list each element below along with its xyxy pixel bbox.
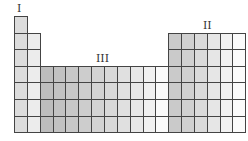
element-cell: [130, 99, 144, 117]
element-cell: [168, 116, 182, 133]
element-cell: [207, 33, 221, 50]
element-cell: [130, 82, 144, 100]
element-cell: [194, 49, 208, 67]
element-cell: [232, 116, 246, 133]
element-cell: [194, 116, 208, 133]
element-cell: [91, 99, 105, 117]
label-block-III: III: [96, 53, 109, 64]
element-cell: [181, 82, 195, 100]
element-cell: [181, 99, 195, 117]
element-cell: [117, 82, 131, 100]
element-cell: [130, 66, 144, 83]
element-cell: [207, 49, 221, 67]
element-cell: [181, 49, 195, 67]
element-cell: [194, 99, 208, 117]
element-cell: [91, 66, 105, 83]
element-cell: [14, 99, 28, 117]
element-cell: [117, 116, 131, 133]
element-cell: [181, 33, 195, 50]
element-cell: [155, 82, 169, 100]
element-cell: [65, 82, 79, 100]
element-cell: [14, 33, 28, 50]
element-cell: [27, 33, 41, 50]
element-cell: [155, 116, 169, 133]
element-cell: [27, 66, 41, 83]
element-cell: [14, 16, 28, 34]
element-cell: [155, 99, 169, 117]
element-cell: [14, 116, 28, 133]
label-block-II: II: [203, 20, 212, 31]
element-cell: [181, 66, 195, 83]
element-cell: [104, 66, 118, 83]
element-cell: [91, 82, 105, 100]
element-cell: [40, 66, 54, 83]
element-cell: [232, 66, 246, 83]
element-cell: [27, 116, 41, 133]
element-cell: [168, 49, 182, 67]
element-cell: [104, 82, 118, 100]
element-cell: [65, 66, 79, 83]
element-cell: [168, 99, 182, 117]
element-cell: [207, 116, 221, 133]
element-cell: [232, 49, 246, 67]
element-cell: [27, 82, 41, 100]
element-cell: [117, 66, 131, 83]
element-cell: [40, 116, 54, 133]
element-cell: [168, 66, 182, 83]
element-cell: [232, 99, 246, 117]
element-cell: [14, 66, 28, 83]
element-cell: [207, 66, 221, 83]
element-cell: [168, 33, 182, 50]
label-block-I: I: [17, 3, 21, 14]
element-cell: [207, 99, 221, 117]
element-cell: [65, 116, 79, 133]
element-cell: [104, 99, 118, 117]
element-cell: [78, 99, 92, 117]
element-cell: [207, 82, 221, 100]
element-cell: [194, 66, 208, 83]
element-cell: [232, 33, 246, 50]
element-cell: [40, 82, 54, 100]
element-cell: [78, 82, 92, 100]
element-cell: [65, 99, 79, 117]
element-cell: [194, 82, 208, 100]
element-cell: [104, 116, 118, 133]
element-cell: [78, 66, 92, 83]
element-cell: [181, 116, 195, 133]
element-cell: [168, 82, 182, 100]
element-cell: [91, 116, 105, 133]
element-cell: [27, 99, 41, 117]
element-cell: [78, 116, 92, 133]
element-cell: [194, 33, 208, 50]
element-cell: [40, 99, 54, 117]
element-cell: [155, 66, 169, 83]
element-cell: [130, 116, 144, 133]
element-cell: [232, 82, 246, 100]
element-cell: [14, 82, 28, 100]
element-cell: [14, 49, 28, 67]
element-cell: [117, 99, 131, 117]
element-cell: [27, 49, 41, 67]
